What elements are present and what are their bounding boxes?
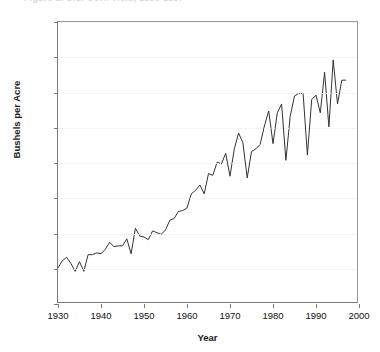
y-tick-mark [54, 163, 58, 164]
x-tick-mark [187, 304, 188, 308]
gridline-y [58, 269, 357, 270]
gridline-y [58, 22, 357, 23]
x-tick-label: 1930 [35, 310, 81, 321]
x-tick-mark [101, 304, 102, 308]
x-tick-mark [58, 304, 59, 308]
gridline-y [58, 93, 357, 94]
x-tick-label: 1970 [207, 310, 253, 321]
gridline-y [58, 128, 357, 129]
x-tick-mark [144, 304, 145, 308]
x-tick-mark [359, 304, 360, 308]
x-tick-label: 1950 [121, 310, 167, 321]
x-tick-label: 2000 [336, 310, 380, 321]
plot-area: 0204060801001201401601930194019501960197… [57, 21, 358, 303]
gridline-y [58, 198, 357, 199]
x-tick-label: 1990 [293, 310, 339, 321]
gridline-y [58, 57, 357, 58]
y-tick-mark [54, 57, 58, 58]
y-tick-mark [54, 22, 58, 23]
y-tick-mark [54, 128, 58, 129]
y-tick-mark [54, 93, 58, 94]
x-tick-label: 1960 [164, 310, 210, 321]
x-tick-mark [316, 304, 317, 308]
gridline-y [58, 234, 357, 235]
x-tick-mark [273, 304, 274, 308]
y-axis-title: Bushels per Acre [11, 60, 22, 180]
x-tick-label: 1980 [250, 310, 296, 321]
x-tick-label: 1940 [78, 310, 124, 321]
cropped-title-sliver: Figure 1. U.S. Corn Yield, 1930-1997 [0, 0, 380, 5]
y-tick-mark [54, 269, 58, 270]
y-tick-mark [54, 198, 58, 199]
gridline-y [58, 163, 357, 164]
y-tick-mark [54, 234, 58, 235]
x-tick-mark [230, 304, 231, 308]
chart-figure: Figure 1. U.S. Corn Yield, 1930-1997 Bus… [0, 0, 380, 352]
x-axis-title: Year [57, 332, 358, 343]
